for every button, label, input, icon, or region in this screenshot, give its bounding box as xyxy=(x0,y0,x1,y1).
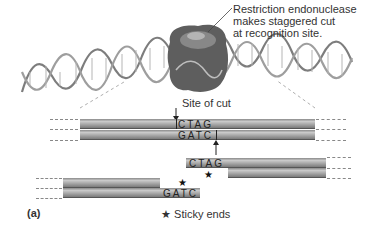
left-overhang-sequence: GATC xyxy=(163,189,198,199)
enzyme-label-line-3: at recognition site. xyxy=(233,27,357,39)
dna-continuation-dash xyxy=(50,129,78,130)
dna-continuation-dash xyxy=(316,140,346,141)
dna-continuation-dash xyxy=(327,157,351,158)
legend: ★ Sticky ends xyxy=(161,208,230,220)
right-fragment-bottom-strand xyxy=(228,168,326,178)
sticky-end-star-icon: ★ xyxy=(204,170,213,180)
star-icon: ★ xyxy=(161,208,171,220)
legend-text: Sticky ends xyxy=(174,208,230,220)
intact-top-sequence: CTAG xyxy=(178,120,213,130)
dna-continuation-dash xyxy=(316,119,346,120)
dna-continuation-dash xyxy=(50,140,78,141)
dna-continuation-dash xyxy=(36,178,62,179)
enzyme-label-line-2: makes staggered cut xyxy=(233,15,357,27)
site-of-cut-label: Site of cut xyxy=(182,97,231,109)
cut-arrow-up-icon xyxy=(212,139,220,155)
dna-continuation-dash xyxy=(327,168,351,169)
enzyme-label: Restriction endonuclease makes staggered… xyxy=(233,3,357,39)
sticky-end-star-icon: ★ xyxy=(178,178,187,188)
dna-continuation-dash xyxy=(36,198,62,199)
dna-continuation-dash xyxy=(50,119,78,120)
dna-continuation-dash xyxy=(316,129,346,130)
dna-continuation-dash xyxy=(36,188,62,189)
right-overhang-sequence: CTAG xyxy=(189,159,224,169)
panel-label: (a) xyxy=(27,207,40,219)
dna-continuation-dash xyxy=(327,178,351,179)
intact-bottom-sequence: GATC xyxy=(178,131,213,141)
restriction-enzyme-blob xyxy=(168,25,228,92)
enzyme-label-line-1: Restriction endonuclease xyxy=(233,3,357,15)
top-cut-line xyxy=(176,119,177,129)
left-fragment-top-strand xyxy=(63,178,160,188)
